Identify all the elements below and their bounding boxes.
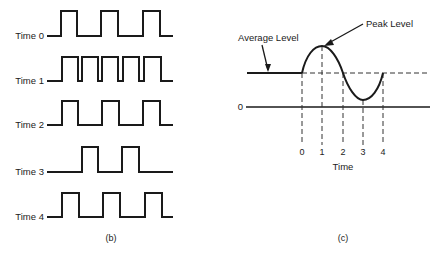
zero-label: 0 bbox=[238, 101, 243, 112]
tick-label-1: 1 bbox=[319, 147, 324, 157]
caption-c: (c) bbox=[338, 233, 349, 243]
row-label-time-2: Time 2 bbox=[15, 119, 44, 130]
panel-b-timing-waveforms: Time 0 Time 1 Time 2 Time 3 Time 4 (b) bbox=[15, 11, 173, 243]
pulse-waveform-time-4 bbox=[47, 193, 173, 217]
x-axis-label: Time bbox=[333, 161, 354, 172]
tick-label-4: 4 bbox=[380, 147, 385, 157]
pulse-waveforms bbox=[47, 11, 173, 217]
diagram-canvas: Time 0 Time 1 Time 2 Time 3 Time 4 (b) A… bbox=[0, 0, 443, 256]
tick-label-0: 0 bbox=[299, 147, 304, 157]
peak-level-arrow bbox=[327, 24, 363, 44]
pulse-waveform-time-3 bbox=[47, 147, 173, 172]
pulse-waveform-time-2 bbox=[47, 101, 173, 125]
tick-label-3: 3 bbox=[360, 147, 365, 157]
caption-b: (b) bbox=[106, 233, 117, 243]
row-label-time-1: Time 1 bbox=[15, 75, 44, 86]
peak-level-label: Peak Level bbox=[366, 18, 413, 29]
pulse-waveform-time-1 bbox=[47, 57, 173, 81]
arrowhead-icon bbox=[324, 39, 334, 46]
row-label-time-3: Time 3 bbox=[15, 166, 44, 177]
arrowhead-icon bbox=[265, 64, 271, 72]
panel-c-average-peak-graph: Average Level Peak Level 0 0 1 2 3 4 Tim… bbox=[238, 18, 430, 243]
average-level-label: Average Level bbox=[238, 32, 299, 43]
pulse-waveform-time-0 bbox=[47, 11, 173, 36]
tick-label-2: 2 bbox=[340, 147, 345, 157]
row-label-time-0: Time 0 bbox=[15, 30, 44, 41]
row-label-time-4: Time 4 bbox=[15, 211, 44, 222]
